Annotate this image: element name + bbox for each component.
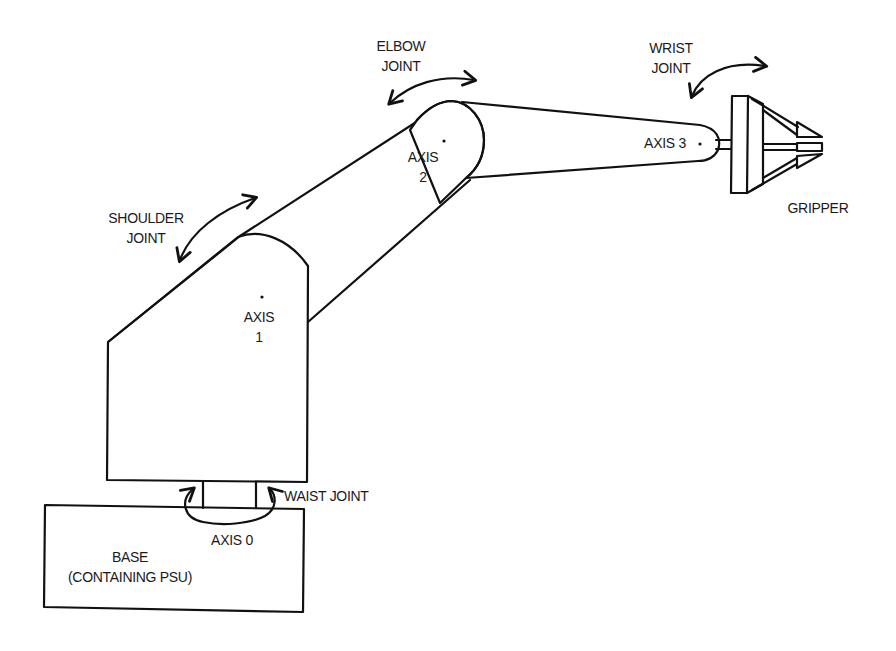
- shoulder-label-line2: JOINT: [98, 228, 194, 248]
- waist-joint-label: WAIST JOINT: [284, 486, 394, 506]
- axis-2-label: AXIS 2: [400, 147, 446, 187]
- shoulder-label-line1: SHOULDER: [98, 208, 194, 228]
- gripper-label-text: GRIPPER: [788, 200, 849, 216]
- wrist-joint-label: WRIST JOINT: [641, 38, 701, 78]
- wrist-label-line1: WRIST: [641, 38, 701, 58]
- axis-0-label-text: AXIS 0: [211, 532, 253, 548]
- waist-joint-label-text: WAIST JOINT: [284, 488, 369, 504]
- base-label-line1: BASE: [55, 547, 205, 567]
- axis-1-label-line1: AXIS: [236, 307, 282, 327]
- axis-2-point: [442, 139, 445, 142]
- axis-1-point: [260, 295, 263, 298]
- elbow-rotation-arrow-icon: [390, 78, 474, 103]
- wrist-label-line2: JOINT: [641, 58, 701, 78]
- base-label: BASE (CONTAINING PSU): [55, 547, 205, 587]
- axis-0-label: AXIS 0: [204, 530, 260, 550]
- shoulder-housing: [107, 234, 308, 482]
- gripper-label: GRIPPER: [780, 198, 856, 218]
- shoulder-joint-label: SHOULDER JOINT: [98, 208, 194, 248]
- base-label-line2: (CONTAINING PSU): [55, 567, 205, 587]
- axis-3-point: [698, 142, 701, 145]
- axis-2-label-line1: AXIS: [400, 147, 446, 167]
- axis-1-label: AXIS 1: [236, 307, 282, 347]
- axis-2-label-line2: 2: [400, 167, 446, 187]
- axis-3-label-text: AXIS 3: [644, 135, 686, 151]
- axis-3-label: AXIS 3: [636, 133, 694, 153]
- wrist-rotation-arrow-icon: [692, 65, 765, 96]
- axis-1-label-line2: 1: [236, 327, 282, 347]
- elbow-label-line2: JOINT: [366, 56, 436, 76]
- gripper: [731, 96, 822, 193]
- elbow-joint-label: ELBOW JOINT: [366, 36, 436, 76]
- elbow-label-line1: ELBOW: [366, 36, 436, 56]
- waist-column: [203, 481, 256, 508]
